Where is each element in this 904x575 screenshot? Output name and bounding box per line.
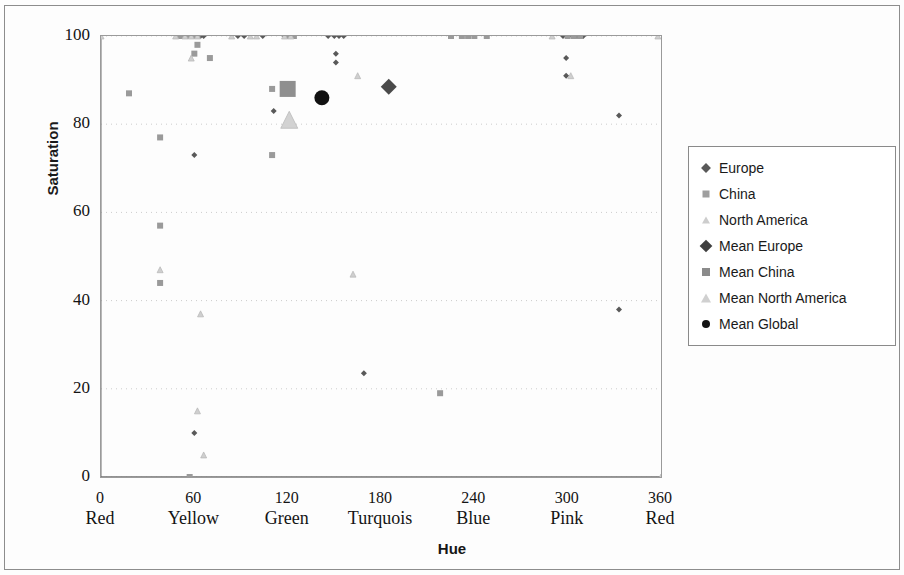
x-tick-name: Red <box>615 507 705 529</box>
data-point-square <box>269 86 275 92</box>
chart-legend: EuropeChinaNorth AmericaMean EuropeMean … <box>688 146 896 346</box>
data-point-triangle <box>198 311 204 317</box>
data-point-diamond <box>333 59 339 65</box>
data-point-diamond <box>333 51 339 57</box>
data-point-square <box>269 152 275 158</box>
data-point-square <box>207 55 213 61</box>
x-axis-title: Hue <box>0 540 904 557</box>
x-tick-name: Pink <box>522 507 612 529</box>
series-europe <box>179 36 622 436</box>
legend-item-mean-global[interactable]: Mean Global <box>697 311 889 337</box>
legend-label: Mean Europe <box>719 238 803 254</box>
x-tick-group: 180Turquois <box>335 488 425 529</box>
data-point-circle <box>314 90 329 105</box>
x-tick-number: 360 <box>615 488 705 507</box>
data-point-diamond <box>271 108 277 114</box>
x-tick-number: 60 <box>148 488 238 507</box>
series-north-america <box>101 36 661 477</box>
data-point-square <box>157 223 163 229</box>
data-point-square <box>157 280 163 286</box>
legend-item-europe[interactable]: Europe <box>697 155 889 181</box>
y-tick-label: 0 <box>44 466 90 486</box>
data-point-diamond <box>241 36 247 39</box>
data-point-diamond <box>336 36 342 39</box>
data-point-triangle <box>194 408 200 414</box>
x-tick-number: 180 <box>335 488 425 507</box>
data-point-square <box>157 134 163 140</box>
x-tick-number: 0 <box>55 488 145 507</box>
chart-screenshot: Saturation 100806040200 0Red60Yellow120G… <box>0 0 904 575</box>
legend-glyph <box>701 294 711 303</box>
legend-item-mean-north-america[interactable]: Mean North America <box>697 285 889 311</box>
data-point-diamond <box>235 36 241 39</box>
data-point-diamond <box>616 112 622 118</box>
legend-item-north-america[interactable]: North America <box>697 207 889 233</box>
x-tick-name: Red <box>55 507 145 529</box>
data-point-square <box>459 36 465 39</box>
data-point-diamond <box>325 36 331 39</box>
data-point-triangle <box>157 267 163 273</box>
legend-item-mean-china[interactable]: Mean China <box>697 259 889 285</box>
legend-glyph <box>702 217 710 224</box>
x-tick-name: Yellow <box>148 507 238 529</box>
data-point-diamond <box>260 36 266 39</box>
data-point-square <box>484 36 490 39</box>
legend-glyph <box>703 191 710 198</box>
legend-label: North America <box>719 212 808 228</box>
x-tick-name: Blue <box>428 507 518 529</box>
x-tick-number: 240 <box>428 488 518 507</box>
y-tick-label: 60 <box>44 201 90 221</box>
series-mean-china <box>280 81 296 97</box>
legend-marker-triangle-icon <box>697 289 715 307</box>
legend-label: Mean China <box>719 264 795 280</box>
x-tick-number: 120 <box>242 488 332 507</box>
data-point-square <box>437 390 443 396</box>
x-tick-group: 120Green <box>242 488 332 529</box>
data-point-square <box>448 36 454 39</box>
legend-glyph <box>700 240 713 253</box>
x-tick-group: 240Blue <box>428 488 518 529</box>
data-point-square <box>187 474 193 477</box>
x-tick-number: 300 <box>522 488 612 507</box>
legend-label: China <box>719 186 756 202</box>
series-mean-north-america <box>281 111 298 128</box>
legend-glyph <box>701 163 711 173</box>
legend-marker-triangle-icon <box>697 211 715 229</box>
data-point-triangle <box>101 36 104 39</box>
x-tick-name: Turquois <box>335 507 425 529</box>
data-point-triangle <box>247 36 253 39</box>
x-tick-group: 0Red <box>55 488 145 529</box>
y-tick-label: 80 <box>44 113 90 133</box>
data-point-square <box>191 51 197 57</box>
data-point-triangle <box>254 36 260 39</box>
data-point-triangle <box>282 36 288 39</box>
data-point-triangle <box>288 36 294 39</box>
data-point-square <box>565 36 571 39</box>
y-tick-label: 40 <box>44 290 90 310</box>
data-point-diamond <box>341 36 347 39</box>
legend-item-china[interactable]: China <box>697 181 889 207</box>
data-point-diamond <box>563 55 569 61</box>
data-point-diamond <box>191 430 197 436</box>
data-point-triangle <box>182 36 188 39</box>
data-point-triangle <box>173 36 179 39</box>
data-point-square <box>194 42 200 48</box>
x-tick-group: 60Yellow <box>148 488 238 529</box>
legend-item-mean-europe[interactable]: Mean Europe <box>697 233 889 259</box>
data-point-triangle <box>188 36 194 39</box>
legend-marker-square-icon <box>697 185 715 203</box>
data-point-square <box>126 90 132 96</box>
scatter-plot-canvas <box>101 36 661 477</box>
legend-glyph <box>702 320 710 328</box>
legend-marker-square-icon <box>697 263 715 281</box>
legend-marker-diamond-icon <box>697 237 715 255</box>
data-point-square <box>571 36 577 39</box>
data-point-triangle <box>229 36 235 39</box>
legend-label: Mean North America <box>719 290 847 306</box>
y-tick-label: 100 <box>44 25 90 45</box>
data-point-diamond <box>191 152 197 158</box>
data-point-square <box>280 81 296 97</box>
legend-label: Europe <box>719 160 764 176</box>
data-point-triangle <box>350 271 356 277</box>
data-point-triangle <box>281 111 298 128</box>
